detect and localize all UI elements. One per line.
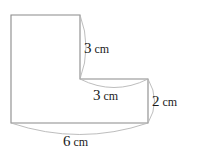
figure-canvas: 3cm 3cm 2cm 6cm — [0, 0, 200, 165]
dimension-value-2: 2 — [152, 93, 160, 109]
dimension-label-bottom-horizontal: 6cm — [63, 133, 89, 149]
dimension-unit-2: cm — [163, 95, 178, 109]
dimension-value-1: 3 — [93, 87, 101, 103]
dimension-unit-1: cm — [104, 89, 119, 103]
l-shape-outline — [11, 15, 148, 123]
dimension-value-0: 3 — [84, 40, 92, 56]
dimension-label-inner-horizontal: 3cm — [93, 87, 119, 103]
dimension-label-right-lower-vertical: 2cm — [152, 93, 178, 109]
dimension-label-right-upper-vertical: 3cm — [84, 40, 110, 56]
dimension-unit-0: cm — [95, 42, 110, 56]
dimension-arc-bottom-horizontal — [11, 123, 148, 135]
geometry-figure: 3cm 3cm 2cm 6cm — [0, 0, 200, 165]
dimension-unit-3: cm — [74, 135, 89, 149]
dimension-value-3: 6 — [63, 133, 71, 149]
